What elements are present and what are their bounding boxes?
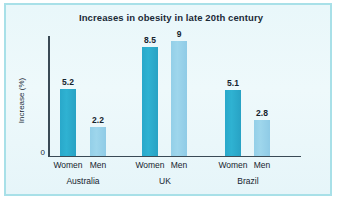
bar-value-uk-women: 8.5 <box>135 35 165 45</box>
x-group-label-uk: UK <box>130 176 200 186</box>
x-tick-uk-men: Men <box>162 160 196 170</box>
bar-brazil-women <box>225 90 241 156</box>
x-tick-australia-women: Women <box>51 160 85 170</box>
bar-value-australia-men: 2.2 <box>83 115 113 125</box>
y-axis-label: Increase (%) <box>17 56 26 146</box>
bar-uk-men <box>171 41 187 156</box>
bar-uk-women <box>142 47 158 156</box>
x-tick-brazil-men: Men <box>245 160 279 170</box>
x-group-label-australia: Australia <box>48 176 118 186</box>
bar-value-brazil-women: 5.1 <box>218 78 248 88</box>
bar-australia-women <box>60 89 76 156</box>
bar-australia-men <box>90 127 106 156</box>
x-tick-australia-men: Men <box>81 160 115 170</box>
x-group-label-brazil: Brazil <box>213 176 283 186</box>
bar-value-australia-women: 5.2 <box>53 77 83 87</box>
y-axis-tick-0: 0 <box>36 148 45 157</box>
chart-title: Increases in obesity in late 20th centur… <box>0 12 342 23</box>
bar-brazil-men <box>254 120 270 156</box>
bar-value-uk-men: 9 <box>164 29 194 39</box>
chart-figure: Increases in obesity in late 20th centur… <box>0 0 342 211</box>
y-axis-line <box>48 36 50 156</box>
bar-value-brazil-men: 2.8 <box>247 108 277 118</box>
chart-plot-area: Increases in obesity in late 20th centur… <box>0 0 342 211</box>
